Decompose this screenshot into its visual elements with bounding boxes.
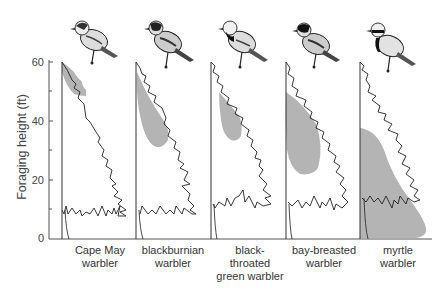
tree-panel-blackburnian [136,62,196,239]
foraging-zone [360,128,426,238]
y-tick-0: 0 [24,232,44,244]
bird-bay-breasted-icon [292,23,340,69]
label-line: warbler [135,257,211,270]
label-line: myrtle [366,244,430,257]
label-line: blackburnian [135,244,211,257]
label-line: black- [209,244,291,257]
label-line: throated [209,257,291,270]
species-label-black-throated-green: black- throated green warbler [209,244,291,283]
species-label-bay-breasted: bay-breasted warbler [286,244,362,270]
species-label-cape-may: Cape May warbler [62,244,138,270]
y-axis-label: Foraging height (ft) [15,87,29,207]
bird-blackburnian-icon [144,21,194,69]
label-line: warbler [286,257,362,270]
y-tick-40: 40 [24,115,44,127]
tree-panel-black-throated-green [211,62,271,239]
bird-cape-may-icon [70,21,118,65]
label-line: warbler [366,257,430,270]
tree-panel-myrtle [360,62,426,239]
species-label-myrtle: myrtle warbler [366,244,430,270]
label-line: Cape May [62,244,138,257]
bird-myrtle-icon [366,23,416,73]
foraging-zone [219,92,242,141]
tree-panel-bay-breasted [286,62,348,239]
y-tick-20: 20 [24,174,44,186]
foraging-zone [286,92,321,174]
label-line: warbler [62,257,138,270]
foraging-zone [137,72,169,147]
y-tick-60: 60 [24,56,44,68]
bird-black-throated-green-icon [218,21,268,69]
label-line: green warbler [209,270,291,283]
tree-panel-cape-may [62,62,126,239]
y-axis-ticks [49,62,53,209]
species-label-blackburnian: blackburnian warbler [135,244,211,270]
label-line: bay-breasted [286,244,362,257]
